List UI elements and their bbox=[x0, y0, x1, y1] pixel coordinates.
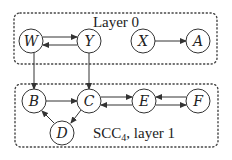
svg-text:E: E bbox=[138, 93, 149, 109]
scc-layer-diagram: Layer 0 SCC4, layer 1 bbox=[0, 0, 232, 160]
node-y: Y bbox=[77, 29, 101, 53]
edge-c-to-d bbox=[71, 110, 81, 123]
group-layer-1: SCC4, layer 1 bbox=[15, 84, 218, 147]
node-b: B bbox=[22, 89, 46, 113]
svg-text:C: C bbox=[84, 93, 95, 109]
node-d: D bbox=[50, 121, 74, 145]
node-a: A bbox=[186, 29, 210, 53]
group-layer-1-label: SCC4, layer 1 bbox=[93, 125, 175, 143]
svg-text:X: X bbox=[137, 33, 149, 49]
group-layer-0-label: Layer 0 bbox=[93, 14, 139, 30]
node-c: C bbox=[77, 89, 101, 113]
node-w: W bbox=[19, 29, 43, 53]
svg-text:D: D bbox=[55, 125, 67, 141]
node-x: X bbox=[131, 29, 155, 53]
edge-d-to-b bbox=[42, 111, 54, 123]
svg-text:A: A bbox=[191, 33, 203, 49]
svg-text:W: W bbox=[24, 33, 40, 49]
node-e: E bbox=[132, 89, 156, 113]
svg-text:B: B bbox=[28, 93, 39, 109]
svg-text:F: F bbox=[192, 93, 204, 109]
node-f: F bbox=[186, 89, 210, 113]
edges bbox=[34, 37, 186, 123]
